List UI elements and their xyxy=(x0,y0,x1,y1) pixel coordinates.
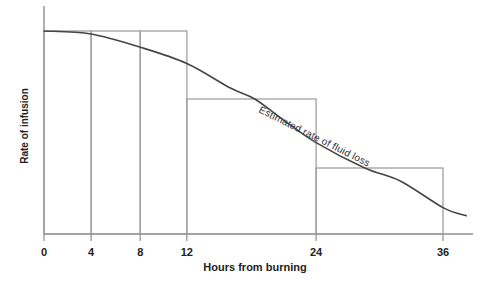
x-axis-tick-label: 36 xyxy=(437,246,449,258)
curve-label: Estimated rate of fluid loss xyxy=(257,104,372,169)
infusion-rate-chart: 048122436 Rate of infusion Hours from bu… xyxy=(0,0,496,289)
bar-segment xyxy=(91,31,140,234)
bar-segment xyxy=(187,99,316,234)
x-axis-label: Hours from burning xyxy=(203,261,306,273)
chart-generated-layer: 048122436 xyxy=(41,6,473,258)
chart-canvas: 048122436 Rate of infusion Hours from bu… xyxy=(0,0,496,289)
bar-segment xyxy=(44,31,91,234)
y-axis-label: Rate of infusion xyxy=(19,88,30,164)
bar-segment xyxy=(140,31,187,234)
x-axis-tick-label: 8 xyxy=(137,246,143,258)
x-axis-tick-label: 4 xyxy=(88,246,95,258)
axis-lines xyxy=(44,6,473,234)
x-axis-tick-label: 0 xyxy=(41,246,47,258)
x-axis-tick-label: 24 xyxy=(310,246,323,258)
x-axis-tick-label: 12 xyxy=(181,246,193,258)
fluid-loss-curve xyxy=(44,31,466,216)
bar-segment xyxy=(316,168,443,234)
